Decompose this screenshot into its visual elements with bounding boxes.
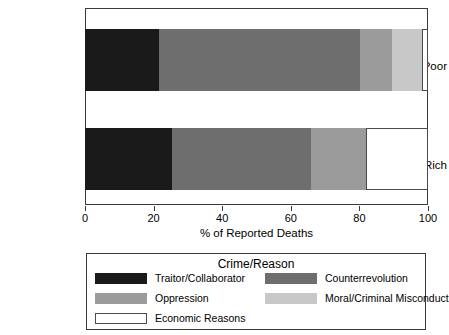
bar-segment xyxy=(422,29,428,91)
legend-title: Crime/Reason xyxy=(87,257,425,271)
x-axis-tick-label: 100 xyxy=(419,212,437,224)
legend-item-label: Moral/Criminal Misconduct xyxy=(325,293,449,304)
legend-swatch-icon xyxy=(95,313,147,324)
x-axis-tick xyxy=(85,206,86,211)
bar-segment xyxy=(366,128,428,190)
bar-segment xyxy=(311,128,366,190)
legend-item[interactable]: Oppression xyxy=(95,293,209,304)
x-axis-tick-label: 40 xyxy=(216,212,228,224)
bar-landlord-rich xyxy=(85,128,428,190)
legend-item-label: Economic Reasons xyxy=(155,313,245,324)
x-axis-tick-label: 20 xyxy=(147,212,159,224)
legend-item[interactable]: Economic Reasons xyxy=(95,313,245,324)
bar-middle-poor xyxy=(85,29,428,91)
bar-segment xyxy=(360,29,392,91)
bar-segment xyxy=(172,128,311,190)
x-axis-tick xyxy=(222,206,223,211)
x-axis-tick-label: 80 xyxy=(353,212,365,224)
legend-item-label: Oppression xyxy=(155,293,209,304)
x-axis-tick xyxy=(428,206,429,211)
legend-item[interactable]: Counterrevolution xyxy=(265,273,408,284)
bar-segment xyxy=(159,29,360,91)
legend-swatch-icon xyxy=(265,293,317,304)
legend-swatch-icon xyxy=(95,273,147,284)
legend-swatch-icon xyxy=(95,293,147,304)
bar-segment xyxy=(85,128,172,190)
legend: Crime/Reason Traitor/CollaboratorOppress… xyxy=(86,253,426,330)
legend-item[interactable]: Traitor/Collaborator xyxy=(95,273,245,284)
x-axis-tick xyxy=(291,206,292,211)
stacked-bar-chart: Middle/Poor Landlord/Rich 020406080100 %… xyxy=(0,0,447,250)
legend-swatch-icon xyxy=(265,273,317,284)
x-axis-tick xyxy=(154,206,155,211)
legend-item-label: Traitor/Collaborator xyxy=(155,273,245,284)
x-axis-tick xyxy=(359,206,360,211)
x-axis-tick-label: 0 xyxy=(82,212,88,224)
x-axis-tick-label: 60 xyxy=(285,212,297,224)
bar-segment xyxy=(392,29,422,91)
x-axis-title: % of Reported Deaths xyxy=(85,227,428,239)
legend-item[interactable]: Moral/Criminal Misconduct xyxy=(265,293,449,304)
bar-segment xyxy=(85,29,159,91)
legend-item-label: Counterrevolution xyxy=(325,273,408,284)
